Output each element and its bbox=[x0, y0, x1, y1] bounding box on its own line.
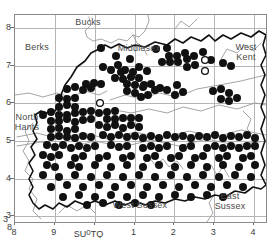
record-dot bbox=[114, 61, 122, 69]
region-label-bucks: Bucks bbox=[75, 17, 101, 27]
record-dot bbox=[87, 84, 95, 92]
record-dot bbox=[144, 91, 152, 99]
record-dot bbox=[207, 183, 215, 191]
record-dot bbox=[126, 55, 134, 63]
record-dot bbox=[171, 133, 179, 141]
record-dot bbox=[158, 58, 166, 66]
record-dot bbox=[219, 59, 227, 67]
region-label-west-sussex: West Sussex bbox=[113, 200, 168, 210]
record-dot bbox=[71, 94, 79, 102]
record-dot bbox=[151, 173, 159, 181]
record-dot bbox=[166, 58, 174, 66]
record-dot bbox=[239, 154, 247, 162]
record-dot bbox=[155, 144, 163, 152]
record-dot bbox=[215, 173, 223, 181]
record-dot bbox=[199, 171, 207, 179]
record-dot bbox=[235, 133, 243, 141]
record-dot bbox=[71, 109, 79, 117]
record-dot bbox=[119, 154, 127, 162]
record-dot bbox=[47, 183, 55, 191]
record-dot bbox=[47, 108, 55, 116]
record-dot bbox=[121, 66, 129, 74]
record-dot bbox=[47, 133, 55, 141]
record-dot bbox=[112, 52, 120, 60]
record-dot bbox=[123, 142, 131, 150]
record-dot bbox=[51, 163, 59, 171]
record-dot bbox=[99, 131, 107, 139]
x-tick-label-3: 3 bbox=[211, 228, 216, 237]
record-dot bbox=[103, 115, 111, 123]
record-dot bbox=[139, 144, 147, 152]
record-dot bbox=[199, 152, 207, 160]
record-dot bbox=[127, 121, 135, 129]
record-dot bbox=[179, 88, 187, 96]
record-dot bbox=[191, 154, 199, 162]
record-dot bbox=[211, 142, 219, 150]
record-dot bbox=[135, 114, 143, 122]
record-dot bbox=[103, 123, 111, 131]
record-dot bbox=[107, 133, 115, 141]
record-dot bbox=[47, 153, 55, 161]
record-dot bbox=[103, 152, 111, 160]
record-dot bbox=[119, 114, 127, 122]
record-dot bbox=[127, 114, 135, 122]
record-dot bbox=[167, 171, 175, 179]
open-record-dot bbox=[202, 57, 209, 64]
record-dot bbox=[195, 132, 203, 140]
record-dot bbox=[155, 161, 163, 169]
record-dot bbox=[83, 144, 91, 152]
record-dot bbox=[91, 193, 99, 201]
region-label-berks: Berks bbox=[25, 42, 49, 52]
record-dot bbox=[71, 134, 79, 142]
record-dot bbox=[167, 154, 175, 162]
region-label-west-kent: West Kent bbox=[235, 42, 256, 62]
record-dot bbox=[107, 191, 115, 199]
record-dot bbox=[99, 199, 107, 207]
record-dot bbox=[239, 183, 247, 191]
record-dot bbox=[247, 152, 255, 160]
record-dot bbox=[47, 125, 55, 133]
record-dot bbox=[187, 193, 195, 201]
record-dot bbox=[156, 84, 164, 92]
record-dot bbox=[171, 91, 179, 99]
record-dot bbox=[183, 63, 191, 71]
region-label-east-sussex: East Sussex bbox=[215, 191, 246, 211]
record-dot bbox=[97, 80, 105, 88]
record-dot bbox=[143, 67, 151, 75]
record-dot bbox=[107, 163, 115, 171]
record-dot bbox=[43, 141, 51, 149]
record-dot bbox=[187, 161, 195, 169]
record-dot bbox=[63, 181, 71, 189]
record-dot bbox=[71, 171, 79, 179]
record-dot bbox=[187, 134, 195, 142]
record-dot bbox=[75, 191, 83, 199]
record-dot bbox=[155, 134, 163, 142]
x-tick-label-4: 4 bbox=[251, 228, 256, 237]
record-dot bbox=[211, 131, 219, 139]
record-dot bbox=[131, 81, 139, 89]
record-dot bbox=[135, 171, 143, 179]
record-dot bbox=[191, 61, 199, 69]
record-dot bbox=[227, 142, 235, 150]
record-dot bbox=[55, 173, 63, 181]
record-dot bbox=[251, 134, 259, 142]
record-dot bbox=[143, 154, 151, 162]
record-dot bbox=[217, 95, 225, 103]
record-dot bbox=[191, 181, 199, 189]
record-dot bbox=[147, 142, 155, 150]
region-label-north-hants: North Hants bbox=[15, 112, 40, 132]
record-dot bbox=[79, 108, 87, 116]
distribution-map-figure: 876543 891234 38 SU0TQ bbox=[0, 0, 272, 238]
record-dot bbox=[55, 103, 63, 111]
record-dot bbox=[243, 131, 251, 139]
record-dot bbox=[243, 142, 251, 150]
record-dot bbox=[55, 132, 63, 140]
record-dot bbox=[203, 133, 211, 141]
record-dot bbox=[219, 144, 227, 152]
record-dot bbox=[87, 133, 95, 141]
grid-square-su: SU bbox=[74, 229, 87, 238]
record-dot bbox=[135, 123, 143, 131]
x-tick-label-1: 1 bbox=[131, 228, 136, 237]
record-dot bbox=[227, 132, 235, 140]
record-dot bbox=[55, 117, 63, 125]
